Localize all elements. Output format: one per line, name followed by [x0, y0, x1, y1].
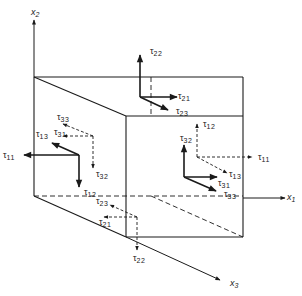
tau22-label: τ22	[150, 47, 162, 56]
tau11-label-subscript: 11	[7, 154, 15, 161]
tau31-label: τ31	[54, 128, 66, 137]
tau12-right-label-subscript: 12	[207, 123, 216, 130]
tau31-label-subscript: 31	[58, 131, 67, 138]
tau32-right-label: τ32	[180, 134, 192, 143]
tau21-label-subscript: 21	[182, 95, 191, 102]
axis-label-x3-symbol: x	[230, 278, 235, 288]
axis-label-x1: x1	[287, 193, 296, 202]
tau31-right-label-subscript: 31	[222, 182, 231, 189]
tau11-right-label-subscript: 11	[262, 156, 270, 163]
axis-label-x2-subscript: 2	[36, 11, 40, 18]
tau32-right-label-subscript: 32	[184, 137, 193, 144]
cube-edge	[34, 77, 126, 116]
cube-solid-edges	[34, 77, 243, 237]
cube-hidden-edges	[34, 77, 243, 237]
tau21-bottom-label-subscript: 21	[103, 221, 112, 228]
cube-hidden-edge	[151, 196, 243, 237]
axis-label-x3-subscript: 3	[235, 282, 239, 289]
tau11-label: τ11	[3, 151, 15, 160]
diagram-canvas	[0, 0, 302, 296]
tau33-right-label-subscript: 33	[228, 193, 237, 200]
tau33-right-label: τ33	[224, 190, 236, 199]
tau13-right-label-subscript: 13	[233, 173, 242, 180]
tau22-bottom-label-subscript: 22	[137, 257, 146, 264]
tau23-label-subscript: 23	[180, 110, 189, 117]
tau12-right-label: τ12	[203, 120, 215, 129]
tau21-bottom-label: τ21	[99, 218, 111, 227]
tau13-arrow-icon	[52, 143, 79, 155]
axis-label-x1-symbol: x	[287, 192, 292, 202]
axis-label-x2-symbol: x	[31, 7, 36, 17]
tau23-bottom-label: τ23	[96, 197, 108, 206]
tau32-label: τ32	[96, 170, 108, 179]
tau12-label: τ12	[84, 188, 96, 197]
tau11-right-label: τ11	[258, 153, 270, 162]
tau23-label: τ23	[176, 107, 188, 116]
tau23-bottom-arrow-icon	[110, 205, 137, 217]
axis-label-x3: x3	[230, 279, 239, 288]
tau23-arrow-icon	[140, 97, 168, 110]
tau23-bottom-label-subscript: 23	[100, 200, 109, 207]
tau31-right-label: τ31	[218, 179, 230, 188]
tau33-right-arrow-icon	[184, 177, 216, 191]
coordinate-axes	[34, 20, 285, 280]
cube-edge	[34, 196, 126, 237]
tau33-label-subscript: 33	[61, 116, 70, 123]
tau33-label: τ33	[57, 113, 69, 122]
tau33-arrow-icon	[63, 124, 93, 136]
tau13-right-label: τ13	[229, 170, 241, 179]
axis-label-x1-subscript: 1	[292, 196, 296, 203]
stress-tensor-diagram: x1x2x3τ22τ21τ23τ11τ12τ13τ31τ33τ32τ12τ11τ…	[0, 0, 302, 296]
tau32-label-subscript: 32	[100, 173, 109, 180]
axis-label-x2: x2	[31, 8, 40, 17]
tau13-right-arrow-icon	[197, 157, 227, 173]
tau22-bottom-label: τ22	[133, 254, 145, 263]
stress-arrows	[24, 55, 252, 250]
tau13-label-subscript: 13	[40, 133, 49, 140]
tau13-label: τ13	[36, 130, 48, 139]
tau21-label: τ21	[178, 92, 190, 101]
tau22-label-subscript: 22	[154, 50, 163, 57]
